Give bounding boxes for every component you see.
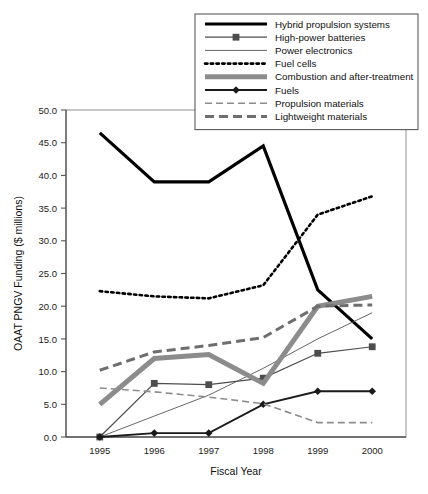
- line-chart-svg: 0.05.010.015.020.025.030.035.040.045.050…: [0, 0, 428, 494]
- series-marker: [151, 380, 158, 387]
- legend-label: Fuel cells: [275, 58, 316, 69]
- chart-figure: 0.05.010.015.020.025.030.035.040.045.050…: [0, 0, 428, 494]
- legend-label: Propulsion materials: [275, 98, 364, 109]
- series-line: [100, 133, 372, 339]
- y-axis-tick-label: 15.0: [39, 334, 58, 345]
- series-marker: [205, 429, 213, 437]
- legend-marker: [233, 34, 240, 41]
- legend: Hybrid propulsion systemsHigh-power batt…: [195, 14, 418, 130]
- series-marker: [314, 350, 321, 357]
- y-axis-tick-label: 45.0: [39, 137, 58, 148]
- series-marker: [314, 387, 322, 395]
- series-8: [100, 305, 372, 370]
- series-6: [96, 387, 376, 440]
- y-axis-tick-label: 30.0: [39, 235, 58, 246]
- y-axis-tick-label: 5.0: [44, 399, 57, 410]
- legend-label: High-power batteries: [275, 32, 365, 43]
- x-axis-title: Fiscal Year: [210, 465, 262, 477]
- x-axis-tick-label: 2000: [362, 445, 383, 456]
- series-marker: [205, 381, 212, 388]
- series-marker: [368, 387, 376, 395]
- y-axis-tick-label: 0.0: [44, 432, 57, 443]
- legend-label: Power electronics: [275, 45, 352, 56]
- y-axis-tick-label: 10.0: [39, 366, 58, 377]
- x-axis-tick-label: 1998: [253, 445, 274, 456]
- y-axis-tick-label: 25.0: [39, 268, 58, 279]
- y-axis-tick-label: 20.0: [39, 301, 58, 312]
- series-1: [100, 133, 372, 339]
- x-axis-tick-label: 1997: [198, 445, 219, 456]
- series-4: [100, 196, 372, 298]
- series-marker: [369, 343, 376, 350]
- y-axis-title: OAAT PNGV Funding ($ millions): [12, 196, 24, 351]
- series-line: [100, 305, 372, 370]
- x-axis-tick-label: 1999: [307, 445, 328, 456]
- y-axis-tick-label: 35.0: [39, 203, 58, 214]
- y-axis-tick-label: 50.0: [39, 105, 58, 116]
- series-7: [100, 388, 372, 423]
- series-line: [100, 196, 372, 298]
- series-5: [100, 296, 372, 404]
- legend-label: Lightweight materials: [275, 111, 367, 122]
- series-line: [100, 391, 372, 437]
- x-axis-tick-label: 1995: [89, 445, 110, 456]
- series-marker: [150, 429, 158, 437]
- series-line: [100, 296, 372, 404]
- x-axis-tick-label: 1996: [144, 445, 165, 456]
- legend-label: Fuels: [275, 85, 299, 96]
- legend-label: Hybrid propulsion systems: [275, 19, 390, 30]
- legend-label: Combustion and after-treatment: [275, 71, 414, 82]
- series-line: [100, 388, 372, 423]
- y-axis-tick-label: 40.0: [39, 170, 58, 181]
